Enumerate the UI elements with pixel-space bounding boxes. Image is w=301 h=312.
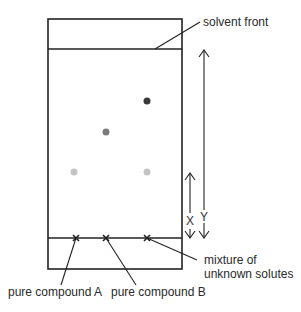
mixture-leader (147, 238, 197, 260)
solvent-front-label: solvent front (203, 15, 269, 29)
spot-compound-a (71, 169, 78, 176)
solvent-front-leader (155, 22, 200, 49)
mixture-label-line2: unknown solutes (204, 267, 293, 281)
spot-compound-b (103, 129, 110, 136)
mixture-label-line1: mixture of (204, 253, 257, 267)
compound-b-leader (106, 238, 136, 285)
distance-x-label: X (186, 214, 194, 228)
chromatography-plate (48, 19, 182, 269)
compound-a-label: pure compound A (8, 285, 102, 299)
compound-a-leader (61, 238, 76, 285)
distance-y-label: Y (200, 210, 208, 224)
spot-mixture-light (144, 169, 151, 176)
spot-mixture-dark (144, 98, 151, 105)
distance-x-arrow (185, 173, 195, 238)
chromatography-diagram: solvent front Y X mixture of unknown sol… (0, 0, 301, 312)
compound-b-label: pure compound B (111, 285, 206, 299)
